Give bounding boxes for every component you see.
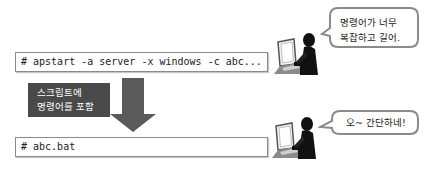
speech-line-2: 복잡하고 길어. — [340, 30, 400, 45]
short-command-text: # abc.bat — [21, 141, 75, 152]
speech-line-1: 오~ 간단하네! — [346, 115, 406, 130]
speech-line-1: 명령어가 너무 — [340, 15, 400, 30]
long-command-text: # apstart -a server -x windows -c abc... — [21, 56, 262, 67]
down-arrow-icon — [108, 76, 158, 138]
script-label: 스크립트에 명령어를 포함 — [28, 83, 110, 117]
label-line-2: 명령어를 포함 — [37, 100, 110, 114]
speech-bubble-complaint: 명령어가 너무 복잡하고 길어. — [320, 6, 420, 54]
person-at-laptop-icon — [270, 112, 320, 166]
speech-bubble-relief: 오~ 간단하네! — [318, 109, 422, 141]
label-line-1: 스크립트에 — [37, 86, 110, 100]
short-command-box: # abc.bat — [15, 137, 268, 157]
long-command-box: # apstart -a server -x windows -c abc... — [15, 52, 268, 72]
person-at-laptop-icon — [272, 28, 322, 82]
